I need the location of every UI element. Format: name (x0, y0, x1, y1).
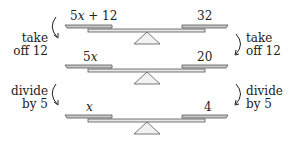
constant-term: + 12 (84, 9, 117, 23)
right-pan (182, 115, 228, 118)
curved-arrow-icon (236, 84, 241, 104)
step-line: by 5 (246, 98, 292, 111)
left-step-1-text: take off 12 (4, 32, 48, 58)
left-pan (65, 65, 112, 68)
left-pan (65, 115, 112, 118)
left-step-2-text: divide by 5 (4, 85, 48, 111)
balance-2-left-expression: 5x (83, 51, 97, 64)
coefficient: 5 (70, 9, 78, 23)
curved-arrow-icon (52, 84, 57, 104)
fulcrum-triangle (134, 72, 160, 84)
curved-arrow-icon (236, 34, 241, 54)
right-step-arrows (235, 34, 241, 105)
left-pan (65, 25, 112, 28)
right-step-1-text: take off 12 (246, 32, 292, 58)
step-line: by 5 (4, 98, 48, 111)
balance-graphics (0, 0, 294, 145)
balance-1 (65, 25, 228, 44)
fulcrum-triangle (134, 32, 160, 44)
balance-diagram: 5x + 12 32 5x 20 x 4 take off 12 divide … (0, 0, 294, 145)
right-pan (182, 65, 228, 68)
balance-3-right-value: 4 (204, 101, 212, 114)
beam (88, 69, 205, 72)
balance-3 (65, 115, 228, 134)
step-line: off 12 (4, 45, 48, 58)
balance-1-left-expression: 5x + 12 (70, 10, 117, 23)
balance-3-left-variable: x (86, 101, 93, 114)
right-pan (182, 25, 228, 28)
right-step-2-text: divide by 5 (246, 85, 292, 111)
coefficient: 5 (83, 50, 91, 64)
balance-2-right-value: 20 (197, 51, 212, 64)
left-step-arrows (52, 17, 58, 105)
balance-1-right-value: 32 (197, 10, 212, 23)
beam (88, 119, 205, 122)
variable: x (91, 50, 98, 64)
balance-2 (65, 65, 228, 84)
beam (88, 29, 205, 32)
fulcrum-triangle (134, 122, 160, 134)
step-line: off 12 (246, 45, 292, 58)
curved-arrow-icon (52, 17, 57, 37)
